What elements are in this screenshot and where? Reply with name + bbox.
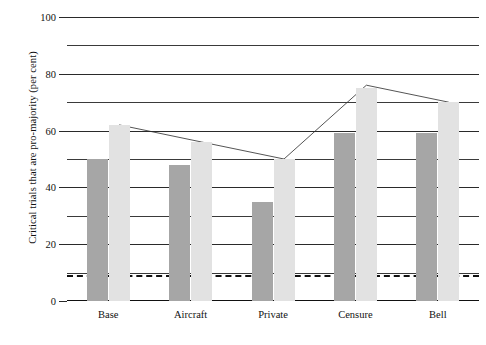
bar-group bbox=[87, 17, 130, 301]
x-axis-label-private: Private bbox=[258, 309, 288, 320]
bar-light bbox=[274, 159, 295, 301]
bar-group bbox=[252, 17, 295, 301]
bar-dark bbox=[334, 133, 355, 301]
x-axis-label-censure: Censure bbox=[338, 309, 372, 320]
bar-dark bbox=[87, 159, 108, 301]
bar-group bbox=[169, 17, 212, 301]
x-axis-label-aircraft: Aircraft bbox=[174, 309, 207, 320]
y-tick-40 bbox=[59, 187, 67, 188]
x-axis-label-bell: Bell bbox=[429, 309, 447, 320]
bar-dark bbox=[252, 202, 273, 301]
bar-light bbox=[109, 125, 130, 301]
y-tick-20 bbox=[59, 244, 67, 245]
y-tick-0 bbox=[59, 301, 67, 302]
x-axis-label-base: Base bbox=[98, 309, 118, 320]
bar-dark bbox=[416, 133, 437, 301]
y-tick-60 bbox=[59, 131, 67, 132]
y-axis-title: Critical trials that are pro-majority (p… bbox=[27, 0, 38, 298]
bar-light bbox=[438, 102, 459, 301]
y-tick-label-20: 20 bbox=[46, 239, 57, 250]
y-tick-label-80: 80 bbox=[46, 68, 57, 79]
bar-group bbox=[334, 17, 377, 301]
y-tick-label-40: 40 bbox=[46, 182, 57, 193]
y-tick-label-100: 100 bbox=[40, 12, 56, 23]
chart-container: Critical trials that are pro-majority (p… bbox=[0, 0, 486, 345]
plot-area: 020406080100 bbox=[67, 17, 479, 301]
y-tick-label-0: 0 bbox=[51, 296, 56, 307]
bar-group bbox=[416, 17, 459, 301]
y-tick-100 bbox=[59, 17, 67, 18]
y-tick-label-60: 60 bbox=[46, 125, 57, 136]
bar-light bbox=[191, 142, 212, 301]
y-tick-80 bbox=[59, 74, 67, 75]
bar-light bbox=[356, 88, 377, 301]
bar-dark bbox=[169, 165, 190, 301]
